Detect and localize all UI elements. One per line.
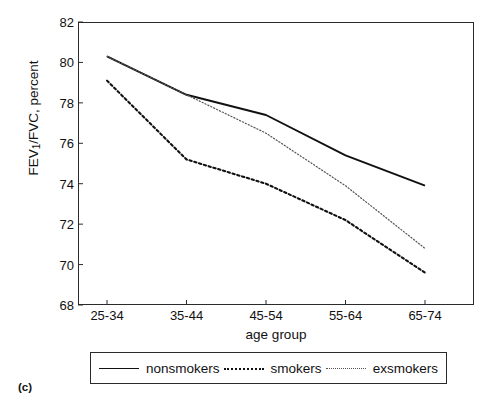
x-tick-label: 45-54 bbox=[231, 308, 301, 323]
legend-label-exsmokers: exsmokers bbox=[373, 361, 438, 376]
legend-label-smokers: smokers bbox=[271, 361, 322, 376]
y-axis-title-subscript: 1 bbox=[31, 144, 42, 150]
legend-swatch-dotted-thick-icon bbox=[224, 363, 264, 373]
legend-entry-exsmokers: exsmokers bbox=[326, 361, 438, 376]
chart-legend: nonsmokers smokers exsmokers bbox=[90, 352, 447, 384]
y-tick-label: 78 bbox=[48, 96, 74, 109]
y-tick-label: 72 bbox=[48, 218, 74, 231]
x-axis-title: age group bbox=[78, 327, 474, 342]
y-tick-label: 82 bbox=[48, 16, 74, 29]
y-axis-title-post: /FVC, percent bbox=[26, 60, 41, 143]
y-tick-label: 70 bbox=[48, 258, 74, 271]
y-tick-label: 68 bbox=[48, 299, 74, 312]
legend-label-nonsmokers: nonsmokers bbox=[146, 361, 220, 376]
y-axis-title-pre: FEV bbox=[26, 149, 41, 175]
y-tick-label: 76 bbox=[48, 137, 74, 150]
y-axis-title: FEV1/FVC, percent bbox=[26, 18, 42, 218]
legend-swatch-dotted-fine-icon bbox=[326, 363, 366, 373]
y-tick-label: 74 bbox=[48, 177, 74, 190]
y-axis-ticks: 6870727476788082 bbox=[42, 0, 74, 415]
x-tick-label: 35-44 bbox=[152, 308, 222, 323]
legend-swatch-solid-icon bbox=[99, 363, 139, 373]
legend-entry-nonsmokers: nonsmokers bbox=[99, 361, 220, 376]
panel-letter: (c) bbox=[18, 381, 32, 393]
y-tick-label: 80 bbox=[48, 56, 74, 69]
plot-area bbox=[78, 22, 474, 305]
x-tick-label: 55-64 bbox=[311, 308, 381, 323]
legend-entry-smokers: smokers bbox=[224, 361, 322, 376]
figure-panel-c: 6870727476788082 FEV1/FVC, percent 25-34… bbox=[0, 0, 491, 415]
x-tick-label: 65-74 bbox=[390, 308, 460, 323]
x-tick-label: 25-34 bbox=[72, 308, 142, 323]
